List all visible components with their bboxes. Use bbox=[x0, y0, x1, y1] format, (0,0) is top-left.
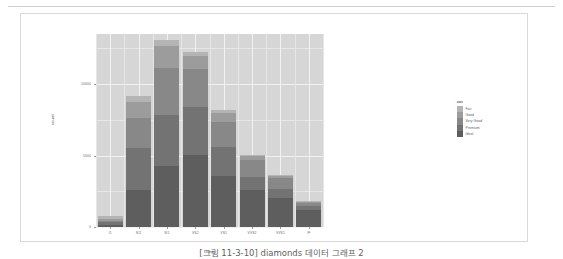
bar-segment-good bbox=[240, 156, 265, 160]
bar-segment-premium bbox=[126, 148, 151, 190]
legend-item-label: Fair bbox=[465, 107, 471, 111]
bar-segment-premium bbox=[211, 147, 236, 175]
x-tick-label-VVS1: VVS1 bbox=[265, 231, 295, 235]
bar-segment-fair bbox=[98, 216, 123, 219]
x-gridline-minor bbox=[153, 34, 154, 227]
bar-segment-ideal bbox=[126, 190, 151, 227]
bar-segment-ideal bbox=[183, 155, 208, 227]
chart-panel bbox=[96, 34, 323, 227]
bar-segment-fair bbox=[211, 110, 236, 112]
bar-SI1 bbox=[154, 40, 179, 227]
x-tick-label-SI2: SI2 bbox=[124, 231, 154, 235]
bar-segment-very-good bbox=[296, 203, 321, 207]
bar-SI2 bbox=[126, 96, 151, 227]
figure-caption: [그림 11-3-10] diamonds 데이터 그래프 2 bbox=[0, 246, 563, 258]
y-tick-mark bbox=[94, 84, 96, 85]
x-tick-mark bbox=[167, 227, 168, 229]
legend-item-ideal: Ideal bbox=[457, 131, 482, 137]
bar-IF bbox=[296, 201, 321, 227]
bar-segment-ideal bbox=[268, 198, 293, 227]
page-top-rule bbox=[8, 6, 555, 7]
x-tick-mark bbox=[309, 227, 310, 229]
bar-VVS2 bbox=[240, 155, 265, 227]
y-tick-label: 10000 bbox=[65, 82, 91, 86]
x-tick-label-VVS2: VVS2 bbox=[237, 231, 267, 235]
x-tick-mark bbox=[195, 227, 196, 229]
x-gridline-minor bbox=[295, 34, 296, 227]
bar-segment-fair bbox=[154, 40, 179, 46]
y-tick-label: 0 bbox=[65, 225, 91, 229]
bar-segment-good bbox=[98, 219, 123, 220]
bar-segment-premium bbox=[240, 177, 265, 189]
bar-segment-premium bbox=[98, 222, 123, 225]
legend-title: cut bbox=[457, 100, 482, 104]
x-tick-mark bbox=[224, 227, 225, 229]
bar-segment-premium bbox=[154, 115, 179, 166]
bar-segment-ideal bbox=[154, 166, 179, 227]
x-tick-label-IF: IF bbox=[294, 231, 324, 235]
legend-item-label: Premium bbox=[465, 126, 479, 130]
x-tick-mark bbox=[110, 227, 111, 229]
chart-legend: cut FairGoodVery GoodPremiumIdeal bbox=[457, 100, 482, 137]
bar-segment-ideal bbox=[211, 176, 236, 227]
bar-segment-good bbox=[268, 175, 293, 178]
bar-segment-good bbox=[183, 56, 208, 70]
bar-segment-premium bbox=[268, 189, 293, 198]
legend-item-label: Good bbox=[465, 113, 474, 117]
bar-segment-fair bbox=[183, 52, 208, 56]
y-gridline-major bbox=[96, 227, 323, 228]
x-gridline-major bbox=[110, 34, 111, 227]
x-tick-label-SI1: SI1 bbox=[152, 231, 182, 235]
bar-segment-very-good bbox=[211, 122, 236, 147]
bar-VS2 bbox=[183, 52, 208, 227]
bar-segment-ideal bbox=[296, 210, 321, 227]
y-axis-title: count bbox=[50, 114, 55, 125]
x-gridline-minor bbox=[238, 34, 239, 227]
bar-segment-premium bbox=[183, 107, 208, 155]
x-gridline-minor bbox=[96, 34, 97, 227]
y-tick-label: 5000 bbox=[65, 154, 91, 158]
x-tick-mark bbox=[252, 227, 253, 229]
x-tick-label-VS2: VS2 bbox=[180, 231, 210, 235]
bar-segment-good bbox=[296, 202, 321, 203]
x-gridline-minor bbox=[124, 34, 125, 227]
bar-VS1 bbox=[211, 110, 236, 227]
x-tick-mark bbox=[139, 227, 140, 229]
x-gridline-minor bbox=[181, 34, 182, 227]
bar-segment-fair bbox=[126, 96, 151, 103]
bar-VVS1 bbox=[268, 175, 293, 227]
bar-segment-ideal bbox=[240, 190, 265, 227]
x-tick-mark bbox=[280, 227, 281, 229]
bar-I1 bbox=[98, 216, 123, 227]
x-tick-label-I1: I1 bbox=[95, 231, 125, 235]
bar-segment-good bbox=[126, 102, 151, 117]
bar-segment-very-good bbox=[183, 69, 208, 106]
bar-segment-fair bbox=[240, 155, 265, 156]
bar-segment-very-good bbox=[240, 160, 265, 178]
legend-item-label: Ideal bbox=[465, 132, 473, 136]
bar-segment-premium bbox=[296, 206, 321, 209]
bar-segment-very-good bbox=[126, 118, 151, 148]
x-gridline-minor bbox=[323, 34, 324, 227]
bar-segment-good bbox=[154, 46, 179, 68]
x-tick-label-VS1: VS1 bbox=[209, 231, 239, 235]
bar-segment-very-good bbox=[154, 68, 179, 114]
y-tick-mark bbox=[94, 227, 96, 228]
x-gridline-minor bbox=[266, 34, 267, 227]
x-gridline-minor bbox=[210, 34, 211, 227]
bar-segment-good bbox=[211, 113, 236, 122]
legend-key-swatch bbox=[457, 131, 463, 137]
y-tick-mark bbox=[94, 156, 96, 157]
legend-item-label: Very Good bbox=[465, 119, 482, 123]
chart-plot-area: count 0500010000I1SI2SI1VS2VS1VVS2VVS1IF… bbox=[20, 13, 528, 242]
x-gridline-major bbox=[309, 34, 310, 227]
bar-segment-very-good bbox=[98, 221, 123, 222]
bar-segment-very-good bbox=[268, 178, 293, 189]
